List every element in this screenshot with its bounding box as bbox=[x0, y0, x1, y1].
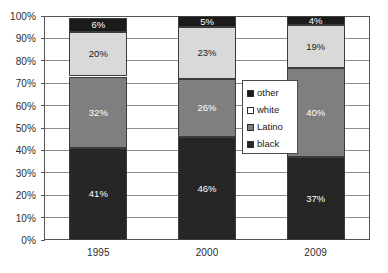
bar-segment-value-label: 5% bbox=[200, 17, 214, 27]
bar-segment-value-label: 40% bbox=[306, 108, 325, 118]
y-axis-tick-label: 30% bbox=[16, 167, 36, 178]
bar-segment-value-label: 26% bbox=[197, 103, 216, 113]
y-axis-tick-label: 20% bbox=[16, 190, 36, 201]
bar-segment-1995-white[interactable]: 20% bbox=[69, 32, 127, 77]
bar-segment-value-label: 20% bbox=[89, 49, 108, 59]
y-axis-tick-label: 100% bbox=[10, 11, 36, 22]
bar-segment-1995-Latino[interactable]: 32% bbox=[69, 77, 127, 149]
bars-layer: 41%32%20%6%46%26%23%5%37%40%19%4% bbox=[44, 16, 370, 240]
x-axis: 199520002009 bbox=[44, 244, 370, 266]
bar-2000[interactable]: 46%26%23%5% bbox=[178, 16, 236, 240]
legend-item-label: white bbox=[257, 105, 279, 115]
y-axis-tick-label: 10% bbox=[16, 212, 36, 223]
bar-1995[interactable]: 41%32%20%6% bbox=[69, 16, 127, 240]
legend-item-label: Latino bbox=[257, 122, 283, 132]
bar-segment-2009-black[interactable]: 37% bbox=[287, 157, 345, 240]
legend-swatch-icon bbox=[247, 90, 254, 97]
y-axis-tick-label: 50% bbox=[16, 123, 36, 134]
bar-segment-value-label: 32% bbox=[89, 108, 108, 118]
bar-segment-value-label: 23% bbox=[197, 48, 216, 58]
bar-segment-1995-black[interactable]: 41% bbox=[69, 148, 127, 240]
legend-item-label: black bbox=[257, 139, 279, 149]
x-axis-tick-label: 2000 bbox=[196, 247, 219, 258]
legend-item-Latino[interactable]: Latino bbox=[247, 119, 297, 135]
y-axis-tick-label: 70% bbox=[16, 78, 36, 89]
bar-segment-2009-other[interactable]: 4% bbox=[287, 16, 345, 25]
legend-item-label: other bbox=[257, 88, 279, 98]
bar-segment-value-label: 19% bbox=[306, 42, 325, 52]
x-axis-tick-label: 2009 bbox=[304, 247, 327, 258]
y-axis-tick-label: 0% bbox=[21, 235, 36, 246]
legend-swatch-icon bbox=[247, 124, 254, 131]
bar-segment-value-label: 4% bbox=[309, 16, 323, 26]
bar-segment-2009-white[interactable]: 19% bbox=[287, 25, 345, 68]
y-axis-tick-label: 60% bbox=[16, 100, 36, 111]
bar-segment-value-label: 37% bbox=[306, 194, 325, 204]
bar-segment-1995-other[interactable]: 6% bbox=[69, 18, 127, 31]
bar-segment-2000-black[interactable]: 46% bbox=[178, 137, 236, 240]
legend-swatch-icon bbox=[247, 107, 254, 114]
bar-segment-2000-white[interactable]: 23% bbox=[178, 27, 236, 79]
legend-item-white[interactable]: white bbox=[247, 102, 297, 118]
bar-segment-2000-Latino[interactable]: 26% bbox=[178, 79, 236, 137]
chart-legend: otherwhiteLatinoblack bbox=[242, 80, 298, 154]
legend-item-black[interactable]: black bbox=[247, 136, 297, 152]
legend-item-other[interactable]: other bbox=[247, 85, 297, 101]
y-axis-tick-label: 80% bbox=[16, 55, 36, 66]
x-axis-tick-label: 1995 bbox=[87, 247, 110, 258]
y-axis-tick-label: 90% bbox=[16, 33, 36, 44]
bar-segment-value-label: 6% bbox=[91, 20, 105, 30]
bar-segment-value-label: 41% bbox=[89, 189, 108, 199]
stacked-bar-chart: 0%10%20%30%40%50%60%70%80%90%100% 41%32%… bbox=[0, 0, 388, 273]
y-axis-tick-label: 40% bbox=[16, 145, 36, 156]
y-axis: 0%10%20%30%40%50%60%70%80%90%100% bbox=[0, 16, 40, 240]
bar-segment-2000-other[interactable]: 5% bbox=[178, 16, 236, 27]
legend-swatch-icon bbox=[247, 141, 254, 148]
bar-segment-value-label: 46% bbox=[197, 184, 216, 194]
